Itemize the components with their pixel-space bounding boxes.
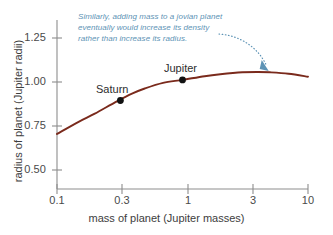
x-tick-label-2: 0.3 bbox=[105, 194, 139, 206]
figure-mass-radius-relation: 1.25 1.00 0.75 0.50 0.1 0.3 1 3 10 radiu… bbox=[0, 0, 333, 235]
x-tick-label-1: 0.1 bbox=[40, 194, 74, 206]
data-point-saturn bbox=[117, 97, 124, 104]
x-tick-label-3: 1 bbox=[171, 194, 205, 206]
annotation-density-note: Similarly, adding mass to a jovian plane… bbox=[78, 11, 256, 44]
x-tick-label-4: 3 bbox=[236, 194, 270, 206]
data-point-jupiter bbox=[179, 76, 186, 83]
annotation-line-2: eventually would increase its density bbox=[78, 22, 256, 33]
annotation-line-1: Similarly, adding mass to a jovian plane… bbox=[78, 11, 256, 22]
annotation-line-3: rather than increase its radius. bbox=[78, 33, 256, 44]
y-axis-label: radius of planet (Jupiter radii) bbox=[12, 31, 24, 191]
axes bbox=[57, 20, 308, 189]
x-axis-label: mass of planet (Jupiter masses) bbox=[0, 212, 333, 224]
data-point-label-saturn: Saturn bbox=[96, 83, 128, 95]
x-tick-label-5: 10 bbox=[291, 194, 325, 206]
data-point-label-jupiter: Jupiter bbox=[164, 62, 197, 74]
